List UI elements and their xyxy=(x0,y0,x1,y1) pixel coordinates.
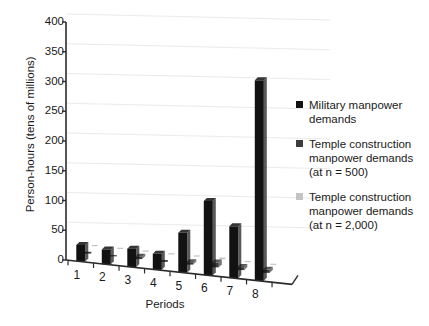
x-axis-tick-label: 5 xyxy=(175,280,182,292)
x-axis-tick-label: 2 xyxy=(99,271,106,283)
x-axis-tick-label: 1 xyxy=(73,269,80,281)
legend-swatch-temple-500 xyxy=(296,140,303,147)
x-axis-tick-label: 3 xyxy=(124,274,131,286)
chart-legend: Military manpower demandsTemple construc… xyxy=(296,98,428,243)
legend-entry: Military manpower demands xyxy=(296,98,428,126)
legend-entry: Temple construction manpower demands (at… xyxy=(296,190,428,232)
x-axis-tick-label: 8 xyxy=(252,288,259,300)
x-axis-tick-label: 6 xyxy=(201,282,208,294)
x-axis-tick-label: 4 xyxy=(150,277,157,289)
legend-swatch-temple-2000 xyxy=(296,193,303,200)
legend-label: Military manpower demands xyxy=(309,98,428,126)
x-axis-tick-label: 7 xyxy=(226,285,233,297)
legend-label: Temple construction manpower demands (at… xyxy=(309,137,428,179)
legend-swatch-military xyxy=(296,101,303,108)
x-axis-title: Periods xyxy=(90,298,240,310)
bar-chart: Person-hours (tens of millions) 05010015… xyxy=(0,0,429,326)
legend-label: Temple construction manpower demands (at… xyxy=(309,190,428,232)
legend-entry: Temple construction manpower demands (at… xyxy=(296,137,428,179)
